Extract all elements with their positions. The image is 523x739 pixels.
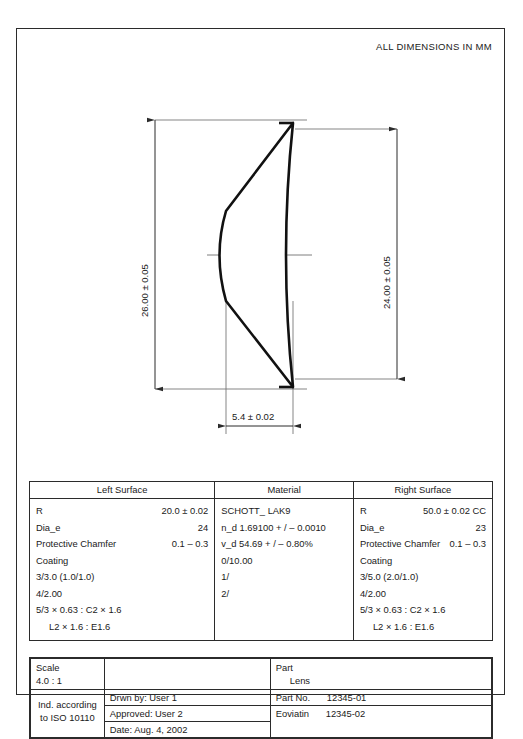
left-surface-row: 3/3.0 (1.0/1.0) bbox=[36, 569, 208, 586]
header-right-surface: Right Surface bbox=[353, 482, 492, 499]
left-surface-key: Coating bbox=[36, 555, 68, 566]
drawing-sheet: ALL DIMENSIONS IN MM bbox=[16, 28, 505, 695]
left-surface-key: 4/2.00 bbox=[36, 588, 62, 599]
right-surface-key: L2 × 1.6 : E1.6 bbox=[373, 621, 434, 632]
material-key: n_d 1.69100 + / – 0.0010 bbox=[221, 522, 326, 533]
scale-label: Scale bbox=[36, 661, 99, 674]
right-surface-row: R50.0 ± 0.02 CC bbox=[360, 503, 486, 520]
blank-cell bbox=[104, 659, 270, 690]
material-row: SCHOTT_ LAK9 bbox=[221, 503, 347, 520]
left-surface-key: R bbox=[36, 503, 43, 520]
right-surface-key: R bbox=[360, 503, 367, 520]
evaluation-label: Eoviatin bbox=[276, 708, 309, 719]
right-surface-key: 3/5.0 (2.0/1.0) bbox=[360, 571, 418, 582]
drawn-by-text: Drwn by: User 1 bbox=[110, 692, 177, 703]
left-surface-key: Protective Chamfer bbox=[36, 536, 116, 553]
part-no-label: Part No. bbox=[276, 692, 310, 703]
left-surface-key: 5/3 × 0.63 : C2 × 1.6 bbox=[36, 604, 121, 615]
evaluation-value: 12345-02 bbox=[326, 708, 366, 719]
cell-left-surface: R20.0 ± 0.02Dia_e24Protective Chamfer0.1… bbox=[30, 499, 215, 641]
lens-cross-section bbox=[220, 123, 294, 387]
material-row: 1/ bbox=[221, 569, 347, 586]
material-list: SCHOTT_ LAK9n_d 1.69100 + / – 0.0010v_d … bbox=[215, 499, 353, 607]
right-surface-row: 5/3 × 0.63 : C2 × 1.6 bbox=[360, 602, 486, 619]
material-key: 0/10.00 bbox=[221, 555, 252, 566]
right-surface-row: Dia_e23 bbox=[360, 520, 486, 537]
material-key: 2/ bbox=[221, 588, 229, 599]
header-left-surface: Left Surface bbox=[30, 482, 215, 499]
right-surface-row: 3/5.0 (2.0/1.0) bbox=[360, 569, 486, 586]
material-key: SCHOTT_ LAK9 bbox=[221, 505, 290, 516]
right-surface-value: 0.1 – 0.3 bbox=[450, 536, 487, 553]
left-surface-row: R20.0 ± 0.02 bbox=[36, 503, 208, 520]
title-block-row-standard: Ind. according to ISO 10110 Drwn by: Use… bbox=[31, 690, 492, 706]
part-no-value: 12345-01 bbox=[327, 692, 367, 703]
title-block: Scale 4.0 : 1 Part Lens Ind. according t… bbox=[29, 657, 493, 739]
part-label: Part bbox=[276, 661, 486, 674]
left-surface-key: 3/3.0 (1.0/1.0) bbox=[36, 571, 94, 582]
left-surface-value: 0.1 – 0.3 bbox=[172, 536, 209, 553]
part-cell: Part Lens bbox=[270, 659, 491, 690]
left-surface-key: Dia_e bbox=[36, 520, 61, 537]
standard-cell: Ind. according to ISO 10110 bbox=[31, 690, 105, 738]
left-surface-list: R20.0 ± 0.02Dia_e24Protective Chamfer0.1… bbox=[30, 499, 214, 640]
right-surface-key: Coating bbox=[360, 555, 392, 566]
approved-cell: Approved: User 2 bbox=[104, 706, 270, 722]
right-surface-row: 4/2.00 bbox=[360, 586, 486, 603]
right-surface-row: L2 × 1.6 : E1.6 bbox=[360, 619, 486, 636]
left-surface-row: Protective Chamfer0.1 – 0.3 bbox=[36, 536, 208, 553]
right-surface-row: Protective Chamfer0.1 – 0.3 bbox=[360, 536, 486, 553]
right-surface-value: 50.0 ± 0.02 CC bbox=[423, 503, 486, 520]
spec-table-header-row: Left Surface Material Right Surface bbox=[30, 482, 492, 499]
header-material: Material bbox=[215, 482, 354, 499]
right-surface-row: Coating bbox=[360, 553, 486, 570]
date-cell: Date: Aug. 4, 2002 bbox=[104, 722, 270, 738]
material-key: 1/ bbox=[221, 571, 229, 582]
left-surface-value: 20.0 ± 0.02 bbox=[161, 503, 208, 520]
material-row: v_d 54.69 + / – 0.80% bbox=[221, 536, 347, 553]
left-surface-value: 24 bbox=[198, 520, 208, 537]
part-value: Lens bbox=[276, 674, 486, 687]
material-row: 0/10.00 bbox=[221, 553, 347, 570]
left-surface-row: Coating bbox=[36, 553, 208, 570]
standard-line-1: Ind. according bbox=[36, 698, 99, 711]
right-surface-list: R50.0 ± 0.02 CCDia_e23Protective Chamfer… bbox=[354, 499, 492, 640]
right-surface-key: 5/3 × 0.63 : C2 × 1.6 bbox=[360, 604, 445, 615]
spec-table-body-row: R20.0 ± 0.02Dia_e24Protective Chamfer0.1… bbox=[30, 499, 492, 641]
scale-value: 4.0 : 1 bbox=[36, 674, 99, 687]
left-surface-key: L2 × 1.6 : E1.6 bbox=[49, 621, 110, 632]
material-key: v_d 54.69 + / – 0.80% bbox=[221, 538, 312, 549]
material-row: 2/ bbox=[221, 586, 347, 603]
evaluation-cell: Eoviatin 12345-02 bbox=[270, 706, 491, 738]
part-no-cell: Part No. 12345-01 bbox=[270, 690, 491, 706]
left-surface-row: 4/2.00 bbox=[36, 586, 208, 603]
dimension-thickness-label: 5.4 ± 0.02 bbox=[232, 411, 274, 422]
right-surface-key: Dia_e bbox=[360, 520, 385, 537]
material-row: n_d 1.69100 + / – 0.0010 bbox=[221, 520, 347, 537]
right-surface-key: 4/2.00 bbox=[360, 588, 386, 599]
standard-line-2: to ISO 10110 bbox=[36, 711, 99, 724]
left-surface-row: L2 × 1.6 : E1.6 bbox=[36, 619, 208, 636]
scale-cell: Scale 4.0 : 1 bbox=[31, 659, 105, 690]
dimension-left-label: 26.00 ± 0.05 bbox=[139, 264, 150, 317]
right-surface-key: Protective Chamfer bbox=[360, 536, 440, 553]
drawn-by-cell: Drwn by: User 1 bbox=[104, 690, 270, 706]
lens-drawing: 26.00 ± 0.05 24.00 ± 0.05 5.4 ± 0.02 bbox=[17, 29, 504, 479]
approved-text: Approved: User 2 bbox=[110, 708, 183, 719]
right-surface-value: 23 bbox=[476, 520, 486, 537]
surface-spec-table: Left Surface Material Right Surface R20.… bbox=[29, 481, 493, 641]
left-surface-row: Dia_e24 bbox=[36, 520, 208, 537]
date-text: Date: Aug. 4, 2002 bbox=[110, 724, 188, 735]
cell-material: SCHOTT_ LAK9n_d 1.69100 + / – 0.0010v_d … bbox=[215, 499, 354, 641]
cell-right-surface: R50.0 ± 0.02 CCDia_e23Protective Chamfer… bbox=[353, 499, 492, 641]
dimension-right-label: 24.00 ± 0.05 bbox=[381, 256, 392, 309]
left-surface-row: 5/3 × 0.63 : C2 × 1.6 bbox=[36, 602, 208, 619]
title-block-row-scale: Scale 4.0 : 1 Part Lens bbox=[31, 659, 492, 690]
